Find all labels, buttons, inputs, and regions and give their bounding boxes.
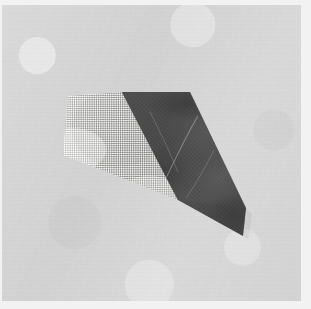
scan-edge-right: [301, 0, 311, 309]
scan-figure: [0, 0, 311, 309]
scan-edge-bottom: [0, 301, 311, 309]
polygon-artwork-svg: [0, 0, 311, 309]
scan-edge-top: [0, 0, 311, 5]
polygon-artwork: [0, 0, 311, 309]
scan-edge-left: [0, 0, 2, 309]
